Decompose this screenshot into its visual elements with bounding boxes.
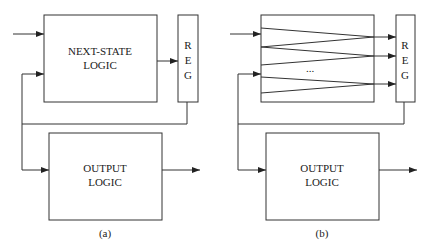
reg-letter-g-b: G (401, 69, 409, 81)
diagram-a: NEXT-STATE LOGIC R E G OUTPUT LOGIC (a) (13, 15, 200, 240)
diagram-b: ... R E G OUTPUT LOGIC (b) (230, 15, 417, 240)
caption-b: (b) (316, 227, 329, 240)
output-label-2: LOGIC (88, 176, 122, 188)
reg-letter-r-b: R (401, 39, 409, 51)
ellipsis: ... (306, 62, 315, 74)
output-label-1-b: OUTPUT (300, 162, 344, 174)
caption-a: (a) (99, 227, 112, 240)
reg-letter-e-b: E (402, 54, 409, 66)
next-state-label-1: NEXT-STATE (68, 45, 132, 57)
reg-letter-g: G (184, 69, 192, 81)
output-label-1: OUTPUT (83, 162, 127, 174)
next-state-label-2: LOGIC (83, 59, 117, 71)
reg-letter-r: R (184, 39, 192, 51)
fsm-diagram: NEXT-STATE LOGIC R E G OUTPUT LOGIC (a) … (0, 0, 431, 250)
reg-letter-e: E (185, 54, 192, 66)
output-label-2-b: LOGIC (305, 176, 339, 188)
